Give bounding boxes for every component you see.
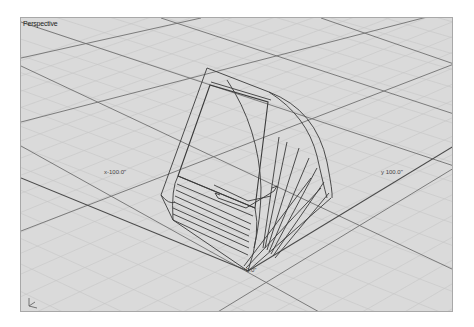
y-axis-label: y 100.0"	[381, 169, 403, 175]
perspective-viewport[interactable]: Perspective	[20, 17, 453, 312]
x-axis-label: x-100.0"	[104, 169, 126, 175]
origin-label: 0.0"	[246, 267, 256, 273]
viewport-title[interactable]: Perspective	[23, 20, 57, 27]
viewport-canvas	[21, 18, 453, 312]
